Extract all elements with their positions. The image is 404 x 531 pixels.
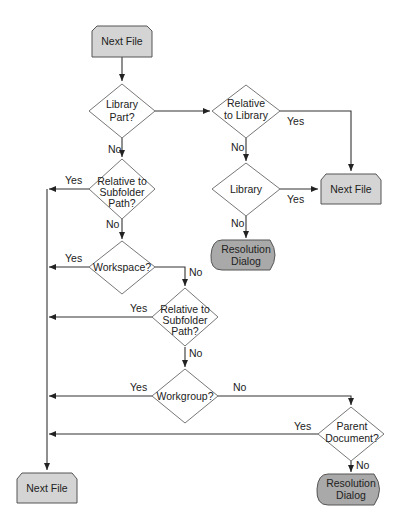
node-label: Next File bbox=[330, 183, 372, 195]
node-label: Library bbox=[230, 183, 263, 195]
node-label-line1: Library bbox=[106, 98, 139, 110]
decision-library: Library bbox=[212, 163, 280, 216]
node-label-line2: Part? bbox=[109, 111, 134, 123]
label-library-part-no: No bbox=[108, 143, 122, 155]
node-label-line1: Resolution bbox=[326, 477, 376, 489]
label-parent-document-no: No bbox=[356, 459, 370, 471]
node-label: Workspace? bbox=[93, 261, 151, 273]
edge-labels: No Yes No Yes No Yes No Yes No Yes No Ye… bbox=[65, 115, 370, 471]
flowchart: Next File Library Part? Relative to Libr… bbox=[0, 0, 404, 531]
label-library-no: No bbox=[231, 217, 245, 229]
node-label-line1: Resolution bbox=[221, 243, 271, 255]
decision-library-part: Library Part? bbox=[89, 84, 155, 138]
label-relative-library-no: No bbox=[231, 141, 245, 153]
label-rel-subfolder-1-no: No bbox=[106, 218, 120, 230]
decision-parent-document: Parent Document? bbox=[318, 407, 384, 461]
label-workspace-no: No bbox=[189, 266, 203, 278]
node-start-next-file: Next File bbox=[92, 26, 152, 57]
label-library-yes: Yes bbox=[287, 193, 304, 205]
label-workgroup-yes: Yes bbox=[130, 381, 147, 393]
terminal-resolution-dialog-bottom: Resolution Dialog bbox=[317, 474, 380, 505]
edge-workspace-no bbox=[155, 267, 185, 286]
label-rel-subfolder-2-no: No bbox=[189, 347, 203, 359]
node-label-line2: Dialog bbox=[231, 255, 261, 267]
label-rel-subfolder-1-yes: Yes bbox=[65, 174, 82, 186]
node-label: Workgroup? bbox=[156, 390, 213, 402]
label-rel-subfolder-2-yes: Yes bbox=[130, 302, 147, 314]
node-next-file-bottom: Next File bbox=[17, 473, 77, 503]
decision-workspace: Workspace? bbox=[89, 241, 155, 294]
edge-workgroup-no bbox=[218, 396, 351, 405]
label-relative-library-yes: Yes bbox=[287, 115, 304, 127]
decision-relative-subfolder-1: Relative to Subfolder Path? bbox=[89, 159, 155, 219]
node-label: Next File bbox=[101, 35, 143, 47]
decision-workgroup: Workgroup? bbox=[152, 369, 218, 423]
terminal-resolution-dialog-middle: Resolution Dialog bbox=[211, 240, 275, 270]
node-label-line3: Path? bbox=[171, 325, 199, 337]
node-label-line3: Path? bbox=[108, 197, 136, 209]
node-label-line1: Relative bbox=[227, 97, 265, 109]
node-label-line2: Document? bbox=[325, 432, 379, 444]
node-next-file-right: Next File bbox=[321, 174, 381, 204]
decision-relative-to-library: Relative to Library bbox=[212, 85, 280, 138]
label-workspace-yes: Yes bbox=[65, 252, 82, 264]
node-label-line2: to Library bbox=[224, 109, 269, 121]
decision-relative-subfolder-2: Relative to Subfolder Path? bbox=[152, 288, 218, 346]
node-label-line2: Dialog bbox=[336, 489, 366, 501]
node-label: Next File bbox=[26, 482, 68, 494]
label-workgroup-no: No bbox=[233, 381, 247, 393]
label-parent-document-yes: Yes bbox=[294, 420, 311, 432]
node-label-line1: Parent bbox=[337, 420, 368, 432]
